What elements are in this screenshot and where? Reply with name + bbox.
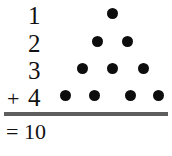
dot-row2-1: [92, 36, 103, 47]
dot-row3-2: [107, 63, 118, 74]
dot-row4-4: [153, 90, 164, 101]
dot-row3-3: [138, 63, 149, 74]
plus-sign: +: [7, 86, 19, 111]
dot-row3-1: [77, 63, 88, 74]
sum-rule-line: [4, 112, 168, 116]
dot-row4-1: [60, 90, 71, 101]
addend-2: 2: [28, 31, 41, 56]
addend-3: 3: [28, 58, 41, 83]
dot-row4-3: [125, 90, 136, 101]
addend-4: 4: [28, 85, 41, 110]
dot-row1-1: [107, 8, 118, 19]
addend-1: 1: [28, 3, 41, 28]
dot-row2-2: [122, 36, 133, 47]
sum-result: = 10: [6, 121, 46, 143]
dot-row4-2: [89, 90, 100, 101]
